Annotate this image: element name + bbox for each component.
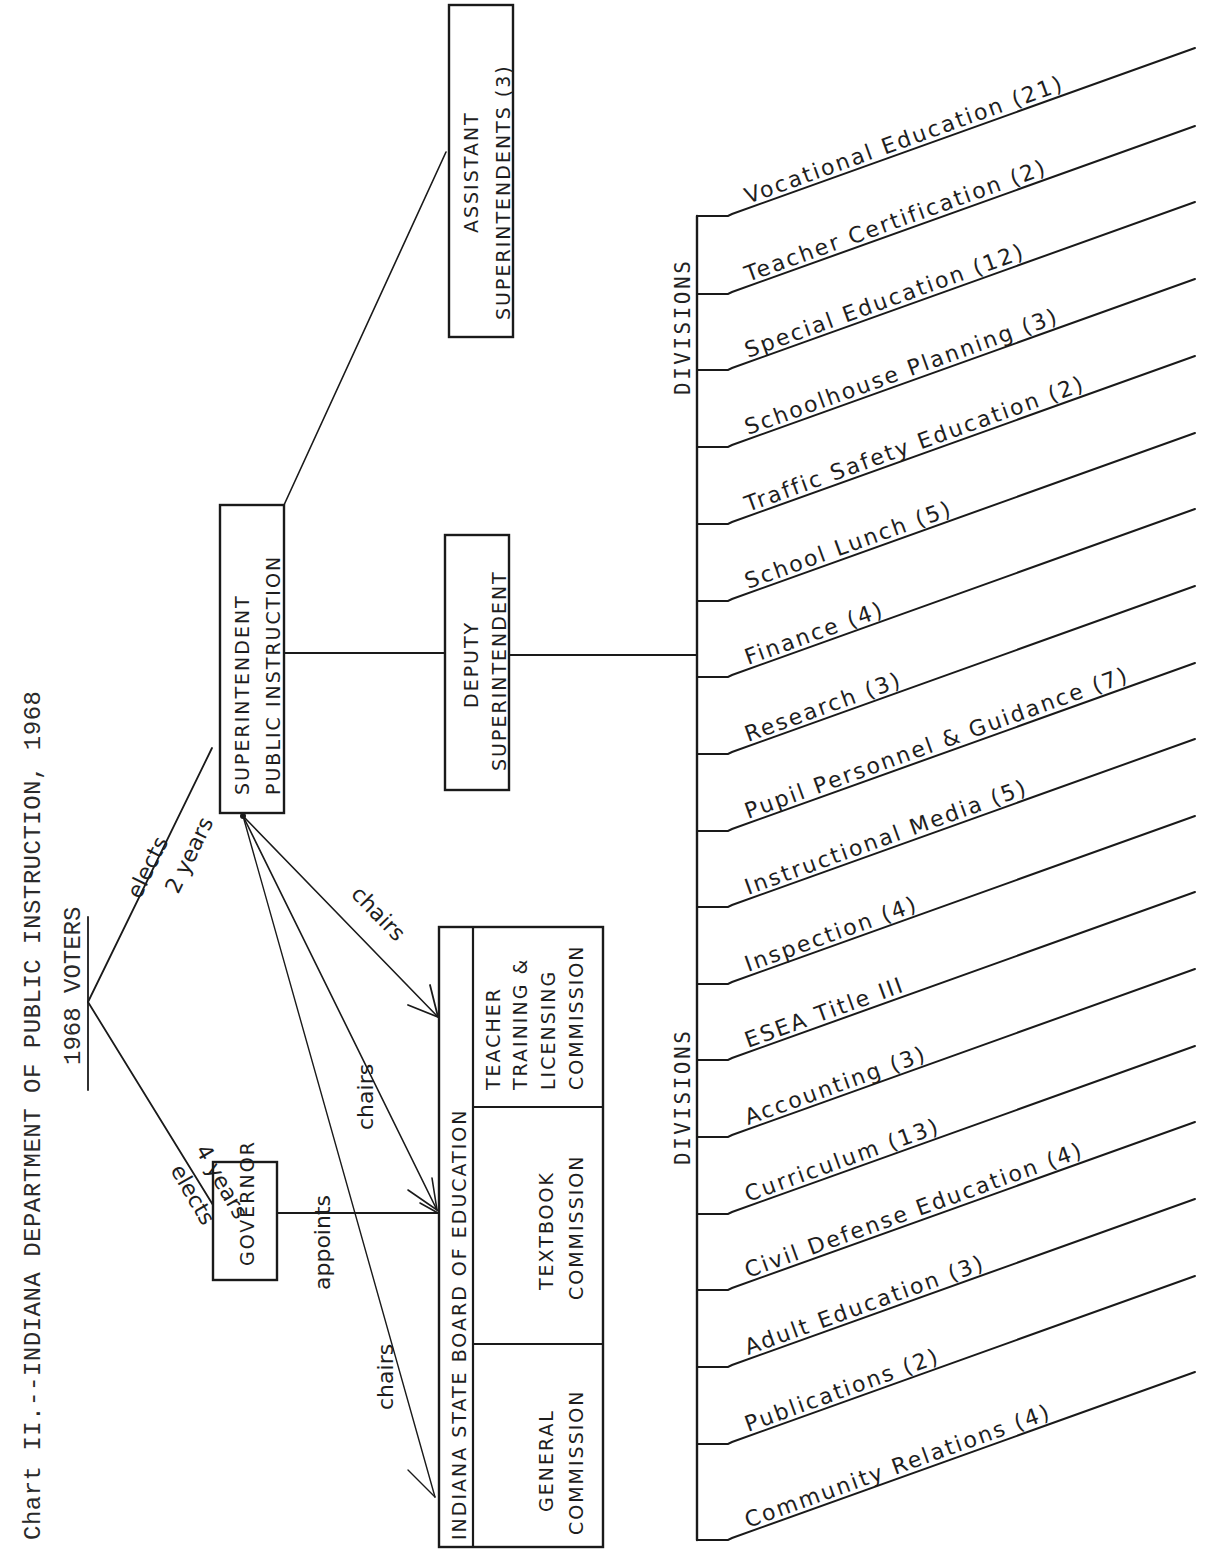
edge-superintendent-chairs: chairs chairs chairs bbox=[240, 813, 438, 1497]
voters-node: 1968 VOTERS bbox=[60, 907, 88, 1090]
division-item: Finance (4) bbox=[697, 509, 1195, 677]
general-commission-line2: COMMISSION bbox=[565, 1389, 587, 1535]
deputy-superintendent-node: DEPUTY SUPERINTENDENT bbox=[445, 535, 510, 790]
division-item: Inspection (4) bbox=[697, 816, 1195, 984]
edge-label-chairs-textbook: chairs bbox=[353, 1064, 378, 1130]
teacher-commission-line1: TEACHER bbox=[482, 987, 504, 1091]
division-label: Traffic Safety Education (2) bbox=[740, 371, 1088, 517]
division-label: Accounting (3) bbox=[741, 1041, 930, 1130]
division-item: Instructional Media (5) bbox=[697, 739, 1195, 907]
textbook-commission: TEXTBOOK COMMISSION bbox=[535, 1154, 587, 1300]
teacher-commission-line2: TRAINING & bbox=[509, 958, 531, 1091]
teacher-commission-line4: COMMISSION bbox=[565, 944, 587, 1090]
assistant-superintendents-node: ASSISTANT SUPERINTENDENTS (3) bbox=[449, 5, 514, 337]
division-label: Curriculum (13) bbox=[741, 1113, 943, 1206]
division-label: Publications (2) bbox=[741, 1343, 943, 1436]
division-item: Community Relations (4) bbox=[697, 1372, 1195, 1540]
division-item: Publications (2) bbox=[697, 1276, 1195, 1444]
edge-governor-board: appoints bbox=[277, 1195, 438, 1290]
division-label: Inspection (4) bbox=[741, 891, 921, 977]
division-label: ESEA Title III bbox=[741, 972, 908, 1053]
governor-node: GOVERNOR bbox=[213, 1140, 277, 1280]
general-commission-line1: GENERAL bbox=[535, 1409, 557, 1512]
assistant-line1: ASSISTANT bbox=[460, 111, 482, 233]
org-chart-diagram: Chart II.--INDIANA DEPARTMENT OF PUBLIC … bbox=[0, 0, 1211, 1553]
division-item: Adult Education (3) bbox=[697, 1199, 1195, 1367]
general-commission: GENERAL COMMISSION bbox=[535, 1389, 587, 1535]
teacher-training-licensing-commission: TEACHER TRAINING & LICENSING COMMISSION bbox=[482, 944, 587, 1091]
deputy-line2: SUPERINTENDENT bbox=[488, 570, 510, 771]
governor-label: GOVERNOR bbox=[236, 1140, 258, 1266]
edge-voters-superintendent: elects 2 years bbox=[88, 748, 218, 1002]
state-board-node: INDIANA STATE BOARD OF EDUCATION GENERAL… bbox=[439, 927, 603, 1547]
division-item: School Lunch (5) bbox=[697, 433, 1195, 601]
textbook-commission-line1: TEXTBOOK bbox=[535, 1171, 557, 1291]
divisions-bar: DIVISIONS DIVISIONS bbox=[671, 216, 697, 1540]
voters-label: 1968 VOTERS bbox=[60, 907, 87, 1065]
superintendent-line1: SUPERINTENDENT bbox=[231, 594, 253, 795]
division-item: ESEA Title III bbox=[697, 892, 1195, 1060]
teacher-commission-line3: LICENSING bbox=[537, 970, 559, 1090]
edge-label-2-years: 2 years bbox=[160, 813, 218, 897]
division-label: Research (3) bbox=[741, 667, 905, 747]
textbook-commission-line2: COMMISSION bbox=[565, 1154, 587, 1300]
division-list: Vocational Education (21)Teacher Certifi… bbox=[697, 48, 1195, 1540]
division-label: Pupil Personnel & Guidance (7) bbox=[741, 662, 1132, 824]
divisions-label-upper: DIVISIONS bbox=[671, 259, 695, 395]
division-item: Accounting (3) bbox=[697, 969, 1195, 1137]
edge-voters-governor: elects 4 years bbox=[88, 1002, 253, 1229]
state-board-title: INDIANA STATE BOARD OF EDUCATION bbox=[448, 1109, 470, 1541]
superintendent-line2: PUBLIC INSTRUCTION bbox=[262, 555, 284, 795]
assistant-line2: SUPERINTENDENTS (3) bbox=[492, 64, 514, 320]
divisions-label-lower: DIVISIONS bbox=[671, 1029, 695, 1165]
chart-title: Chart II.--INDIANA DEPARTMENT OF PUBLIC … bbox=[20, 691, 47, 1540]
edge-label-elects: elects bbox=[122, 832, 173, 902]
division-label: School Lunch (5) bbox=[741, 496, 956, 594]
division-label: Civil Defense Education (4) bbox=[741, 1137, 1087, 1282]
edge-label-appoints: appoints bbox=[310, 1195, 335, 1290]
superintendent-node: SUPERINTENDENT PUBLIC INSTRUCTION bbox=[220, 505, 284, 813]
deputy-line1: DEPUTY bbox=[460, 621, 482, 708]
division-label: Finance (4) bbox=[741, 596, 887, 669]
edge-label-chairs-general: chairs bbox=[373, 1344, 398, 1410]
edge-label-chairs-teacher: chairs bbox=[346, 881, 410, 946]
edge-superintendent-assistant bbox=[284, 152, 446, 505]
